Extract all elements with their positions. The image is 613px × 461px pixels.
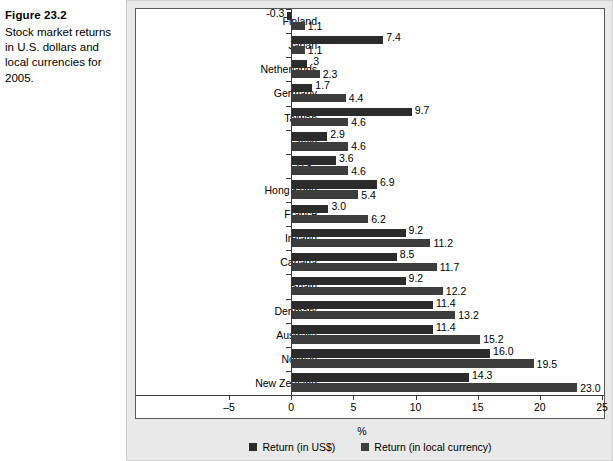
bar-usd	[291, 205, 328, 213]
bar-usd	[291, 36, 383, 44]
bar-row: Australia11.415.2	[136, 323, 604, 347]
axis-tick	[540, 395, 541, 400]
bar-value-label: 23.0	[580, 384, 600, 393]
x-axis-line	[136, 395, 604, 396]
axis-tick	[229, 395, 230, 400]
bar-rows: Finland-0.31.1Japan7.41.1Netherlands.32.…	[136, 9, 604, 395]
bar-usd	[291, 84, 312, 92]
bar-local	[291, 239, 430, 247]
axis-tick	[291, 395, 292, 400]
bar-row: Spain9.212.2	[136, 274, 604, 298]
figure-number: Figure 23.2	[5, 8, 117, 23]
bar-usd	[291, 180, 377, 188]
bar-row: France3.06.2	[136, 202, 604, 226]
bar-value-label: 2.9	[330, 130, 345, 139]
bar-value-label: 7.4	[386, 33, 401, 42]
bar-value-label: 11.4	[436, 323, 456, 332]
axis-tick-label: 0	[288, 401, 294, 413]
bar-usd	[291, 156, 336, 164]
bar-value-label: 11.4	[436, 299, 456, 308]
bar-row: Japan7.41.1	[136, 33, 604, 57]
bar-value-label: 19.5	[537, 360, 557, 369]
bar-value-label: 5.4	[361, 191, 376, 200]
bar-usd	[291, 132, 327, 140]
bar-row: Denmark11.413.2	[136, 299, 604, 323]
bar-usd	[291, 277, 405, 285]
bar-row: Finland-0.31.1	[136, 9, 604, 33]
bar-local	[291, 311, 455, 319]
bar-value-label: 15.2	[483, 335, 503, 344]
bar-local	[291, 94, 346, 102]
legend-item-local: Return (in local currency)	[361, 441, 491, 453]
chart-legend: Return (in US$) Return (in local currenc…	[127, 441, 613, 453]
bar-value-label: 9.2	[409, 226, 424, 235]
bar-value-label: 1.7	[315, 81, 330, 90]
legend-item-usd: Return (in US$)	[249, 441, 335, 453]
axis-tick-label: –5	[223, 401, 235, 413]
bar-value-label: 9.2	[409, 274, 424, 283]
bar-value-label: 9.7	[415, 106, 430, 115]
bar-usd	[291, 301, 433, 309]
bar-value-label: -0.3	[266, 9, 284, 18]
bar-usd	[291, 325, 433, 333]
legend-swatch-local-icon	[361, 443, 369, 451]
bar-row: Italy2.94.6	[136, 130, 604, 154]
bar-row: Ireland9.211.2	[136, 226, 604, 250]
bar-row: Canada8.511.7	[136, 250, 604, 274]
bar-usd	[291, 349, 490, 357]
bar-value-label: 14.3	[472, 371, 492, 380]
bar-value-label: 4.6	[351, 167, 366, 176]
bar-value-label: 3.6	[339, 154, 354, 163]
bar-local	[291, 359, 533, 367]
zero-baseline	[291, 9, 292, 395]
bar-row: Norway16.019.5	[136, 347, 604, 371]
bar-value-label: 11.2	[433, 239, 453, 248]
bar-value-label: 6.9	[380, 178, 395, 187]
bar-value-label: .3	[310, 57, 319, 66]
figure-container: Figure 23.2 Stock market returns in U.S.…	[0, 0, 613, 461]
axis-tick	[416, 395, 417, 400]
figure-caption: Figure 23.2 Stock market returns in U.S.…	[5, 8, 117, 86]
bar-row: New Zealand14.323.0	[136, 371, 604, 395]
bar-value-label: 4.6	[351, 142, 366, 151]
bar-local	[291, 142, 348, 150]
figure-description: Stock market returns in U.S. dollars and…	[5, 25, 117, 86]
bar-value-label: 4.6	[351, 118, 366, 127]
axis-tick	[602, 395, 603, 400]
axis-tick-label: 5	[350, 401, 356, 413]
bar-local	[291, 22, 305, 30]
bar-local	[291, 190, 358, 198]
chart-panel: Finland-0.31.1Japan7.41.1Netherlands.32.…	[126, 0, 613, 461]
axis-tick-label: 15	[472, 401, 484, 413]
bar-local	[291, 287, 443, 295]
bar-value-label: 3.0	[331, 202, 346, 211]
bar-row: Netherlands.32.3	[136, 57, 604, 81]
axis-tick	[478, 395, 479, 400]
bar-row: Germany1.74.4	[136, 81, 604, 105]
bar-local	[291, 118, 348, 126]
legend-label-usd: Return (in US$)	[262, 441, 335, 453]
bar-usd	[291, 108, 412, 116]
bar-value-label: 11.7	[440, 263, 460, 272]
bar-value-label: 16.0	[493, 347, 513, 356]
legend-label-local: Return (in local currency)	[374, 441, 491, 453]
bar-row: Hong Kong6.95.4	[136, 178, 604, 202]
axis-tick	[353, 395, 354, 400]
bar-usd	[291, 373, 469, 381]
bar-local	[291, 383, 577, 391]
bar-local	[291, 70, 320, 78]
legend-swatch-usd-icon	[249, 443, 257, 451]
bar-local	[291, 263, 436, 271]
bar-value-label: 2.3	[323, 70, 338, 79]
bar-row: Taiwan9.74.6	[136, 106, 604, 130]
plot-area: Finland-0.31.1Japan7.41.1Netherlands.32.…	[135, 8, 605, 419]
axis-tick-label: 25	[596, 401, 608, 413]
bar-value-label: 6.2	[371, 215, 386, 224]
axis-tick-label: 20	[534, 401, 546, 413]
bar-value-label: 1.1	[308, 22, 323, 31]
bar-row: U.K.3.64.6	[136, 154, 604, 178]
bar-local	[291, 335, 480, 343]
bar-value-label: 12.2	[446, 287, 466, 296]
bar-local	[291, 215, 368, 223]
bar-value-label: 4.4	[349, 94, 364, 103]
